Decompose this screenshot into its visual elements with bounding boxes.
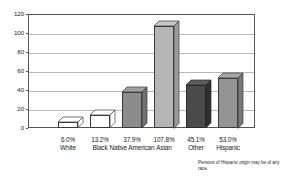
- bar-side-face: [142, 92, 147, 128]
- y-axis-tick-label: 20: [0, 106, 24, 112]
- y-axis-tick-label: 80: [0, 49, 24, 55]
- bar-value-label: 53.0%: [204, 136, 252, 144]
- bar-chart: 020406080100120 6.0%White13.2%Black37.9%…: [0, 0, 290, 183]
- bar[interactable]: [90, 110, 110, 128]
- bar-front-face: [186, 85, 206, 128]
- x-axis-label-hispanic: 53.0%Hispanic: [204, 136, 252, 153]
- bar-front-face: [58, 122, 78, 128]
- bar-side-face: [78, 122, 83, 128]
- footnote: Persons of Hispanic origin may be of any…: [198, 160, 286, 171]
- bar[interactable]: [218, 73, 238, 128]
- bar[interactable]: [58, 117, 78, 128]
- bar-side-face: [238, 78, 243, 128]
- bar-front-face: [122, 92, 142, 128]
- bar-front-face: [90, 115, 110, 128]
- bar[interactable]: [186, 80, 206, 128]
- bar-side-face: [174, 26, 179, 128]
- y-axis-tick-label: 0: [0, 125, 24, 131]
- y-axis-tick-mark: [26, 128, 28, 129]
- y-axis-tick-label: 40: [0, 87, 24, 93]
- bars-layer: [28, 14, 255, 128]
- bar-front-face: [218, 78, 238, 128]
- bar[interactable]: [122, 87, 142, 128]
- bar[interactable]: [154, 21, 174, 128]
- y-axis-tick-label: 120: [0, 11, 24, 17]
- bar-side-face: [110, 115, 115, 128]
- bar-front-face: [154, 26, 174, 128]
- bar-category-label: Hispanic: [204, 144, 252, 152]
- bar-side-face: [206, 85, 211, 128]
- y-axis-tick-label: 100: [0, 30, 24, 36]
- y-axis-tick-label: 60: [0, 68, 24, 74]
